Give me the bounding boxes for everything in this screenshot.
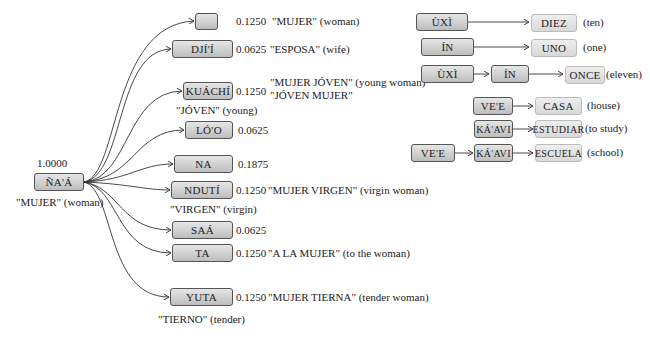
child-node-loo: LÓ'O [185, 121, 233, 139]
child-node-saa: SAÁ [172, 221, 233, 239]
child-weight: 0.0625 [236, 43, 266, 55]
child-gloss: "MUJER VIRGEN" (virgin woman) [268, 184, 428, 196]
child-weight: 0.1875 [238, 158, 268, 170]
child-node-nduti: NDUTÍ [171, 181, 233, 199]
number-result-uno: UNO [531, 39, 577, 57]
compound-result-casa: CASA [535, 97, 582, 115]
compound-result-escuela: ESCUELA [535, 144, 582, 162]
compound-part-vee: VE'E [473, 97, 513, 115]
child-weight: 0.1250 [236, 15, 266, 27]
child-sub-gloss: "VIRGEN" (virgin) [170, 203, 257, 215]
child-weight: 0.0625 [238, 124, 268, 136]
child-node-ta: TA [172, 244, 233, 262]
root-weight: 1.0000 [37, 157, 67, 169]
child-node-yuta: YUTA [170, 288, 233, 306]
child-weight: 0.1250 [236, 247, 266, 259]
child-weight: 0.1250 [236, 184, 266, 196]
child-node-kuachi: KUÁCHÍ [183, 82, 233, 100]
compound-gloss: (to study) [585, 122, 627, 134]
compound-gloss: (school) [587, 146, 623, 158]
child-sub-gloss: "TIERNO" (tender) [158, 313, 245, 325]
child-node-empty [195, 13, 218, 30]
child-weight: 0.1250 [236, 85, 266, 97]
number-gloss: (one) [583, 41, 606, 53]
child-node-djii: DJÍ'Í [172, 40, 233, 58]
child-gloss-2: "JÓVEN MUJER" [270, 89, 353, 101]
child-weight: 0.0625 [236, 224, 266, 236]
number-gloss: (eleven) [606, 68, 642, 80]
number-part-uxi: ÙXÌ [421, 65, 474, 83]
child-gloss: "MUJER JÓVEN" (young woman) [270, 76, 425, 88]
number-part-uxi: ÙXÌ [416, 13, 468, 31]
number-part-in: ÍN [491, 65, 529, 83]
child-weight: 0.1250 [236, 291, 266, 303]
number-gloss: (ten) [583, 16, 604, 28]
root-gloss: "MUJER" (woman) [16, 196, 104, 208]
root-node: ÑA'Á [34, 173, 84, 191]
compound-part-kaavi: KÁ'AVI [474, 144, 513, 162]
child-gloss: "A LA MUJER" (to the woman) [268, 247, 410, 259]
compound-part-vee: VE'E [411, 144, 455, 162]
compound-gloss: (house) [587, 99, 620, 111]
number-part-in: ÍN [421, 38, 474, 56]
number-result-once: ONCE [565, 66, 605, 84]
number-result-diez: DIEZ [531, 14, 577, 32]
child-node-na: NA [174, 155, 233, 173]
compound-result-estudiar: ESTUDIAR [535, 120, 582, 138]
child-sub-gloss: "JÓVEN" (young) [176, 104, 257, 116]
compound-part-kaavi: KÁ'AVI [474, 120, 513, 138]
child-gloss: "MUJER TIERNA" (tender woman) [268, 291, 429, 303]
child-gloss: "MUJER" (woman) [272, 15, 360, 27]
child-gloss: "ESPOSA" (wife) [270, 43, 350, 55]
